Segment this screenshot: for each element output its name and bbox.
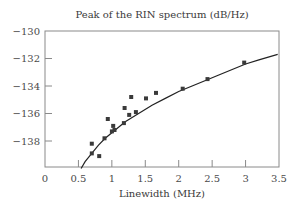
data-point	[154, 91, 158, 95]
y-tick-label: −134	[13, 81, 40, 92]
data-point	[242, 61, 246, 65]
x-axis: 00.511.522.533.5	[42, 160, 287, 184]
fit-curve	[81, 54, 278, 168]
chart: Peak of the RIN spectrum (dB/Hz) −130−13…	[0, 0, 299, 209]
data-point	[206, 77, 210, 81]
x-axis-label: Linewidth (MHz)	[119, 188, 205, 199]
x-tick-label: 3.5	[271, 173, 287, 184]
x-tick-label: 2	[176, 173, 182, 184]
x-tick-label: 2.5	[204, 173, 220, 184]
chart-title: Peak of the RIN spectrum (dB/Hz)	[75, 9, 248, 20]
data-point	[129, 95, 133, 99]
data-point	[106, 117, 110, 121]
data-point	[144, 96, 148, 100]
data-point	[127, 113, 131, 117]
data-point	[122, 121, 126, 125]
y-axis: −130−132−134−136−138	[13, 26, 52, 147]
data-point	[181, 87, 185, 91]
y-tick-label: −138	[13, 136, 40, 147]
data-point	[90, 151, 94, 155]
y-tick-label: −136	[13, 108, 40, 119]
y-tick-label: −132	[13, 53, 40, 64]
data-point	[111, 124, 115, 128]
x-tick-label: 0	[42, 173, 48, 184]
y-tick-label: −130	[13, 26, 40, 37]
data-point	[123, 106, 127, 110]
x-tick-label: 3	[242, 173, 248, 184]
x-tick-label: 1	[109, 173, 115, 184]
data-point	[113, 128, 117, 132]
data-point	[97, 154, 101, 158]
data-point	[103, 136, 107, 140]
data-points	[90, 61, 246, 159]
x-tick-label: 0.5	[70, 173, 86, 184]
x-tick-label: 1.5	[137, 173, 153, 184]
data-point	[90, 142, 94, 146]
plot-frame	[45, 31, 279, 167]
data-point	[134, 110, 138, 114]
